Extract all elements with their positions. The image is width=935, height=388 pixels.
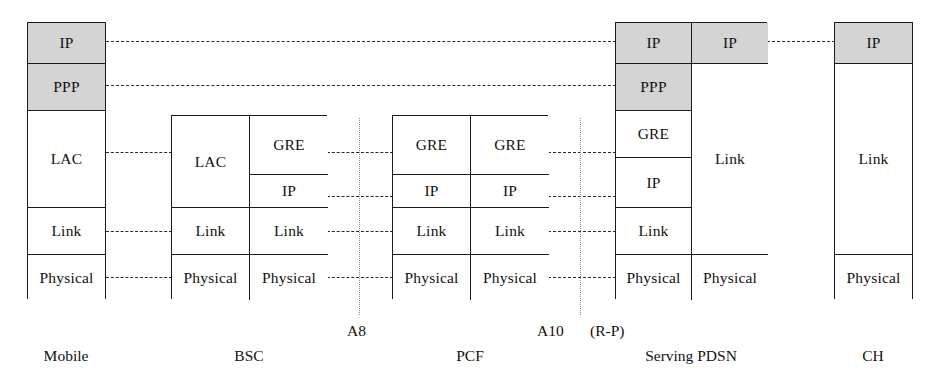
layer-pdsn-ppp: PPP (616, 64, 692, 111)
node-label-ch: CH (862, 347, 884, 365)
connector-ip-bsc-pcf (327, 196, 393, 197)
layer-pcf-physical-left: Physical (393, 255, 471, 300)
layer-pdsn-physical-right: Physical (692, 255, 768, 300)
connector-ip-pdsn-ch (767, 41, 835, 42)
node-label-serving-pdsn: Serving PDSN (645, 347, 737, 365)
interface-label-a10: A10 (537, 322, 564, 340)
layer-pdsn-ip-upper: IP (616, 23, 692, 64)
stack-ch: IP Link Physical (834, 22, 913, 299)
interface-label-rp: (R-P) (590, 322, 624, 340)
connector-lac-mobile-bsc (106, 152, 172, 153)
connector-ip-mobile-pdsn (106, 41, 616, 42)
layer-bsc-gre: GRE (250, 116, 328, 175)
node-label-mobile: Mobile (44, 347, 89, 365)
layer-pcf-ip-left: IP (393, 175, 471, 208)
connector-physical-mobile-bsc (106, 277, 172, 278)
connector-link-mobile-bsc (106, 231, 172, 232)
layer-pcf-gre-left: GRE (393, 116, 471, 175)
connector-link-bsc-pcf (327, 231, 393, 232)
layer-pdsn-link-left: Link (616, 208, 692, 255)
connector-physical-bsc-pcf (327, 277, 393, 278)
layer-mobile-link: Link (28, 208, 105, 255)
interface-label-a8: A8 (347, 322, 366, 340)
layer-pdsn-ip-lower: IP (616, 158, 692, 208)
connector-physical-pcf-pdsn (548, 277, 616, 278)
connector-gre-bsc-pcf (327, 152, 393, 153)
connector-ip-pcf-pdsn (548, 196, 616, 197)
stack-bsc: LAC Link Physical GRE IP Link Physical (171, 115, 327, 299)
layer-bsc-physical-right: Physical (250, 255, 328, 300)
layer-pcf-physical-right: Physical (471, 255, 549, 300)
layer-pcf-ip-right: IP (471, 175, 549, 208)
layer-pcf-gre-right: GRE (471, 116, 549, 175)
layer-ch-ip: IP (835, 23, 912, 64)
interface-line-a10 (580, 118, 581, 315)
layer-pcf-link-left: Link (393, 208, 471, 255)
node-label-pcf: PCF (456, 347, 484, 365)
connector-link-pcf-pdsn (548, 231, 616, 232)
stack-serving-pdsn: IP PPP GRE IP Link Physical IP Link Phys… (615, 22, 767, 299)
layer-mobile-ppp: PPP (28, 64, 105, 111)
layer-pdsn-physical-left: Physical (616, 255, 692, 300)
protocol-stack-diagram: IP PPP LAC Link Physical LAC Link Physic… (0, 0, 935, 388)
node-label-bsc: BSC (234, 347, 263, 365)
layer-mobile-ip: IP (28, 23, 105, 64)
interface-line-a8 (359, 118, 360, 315)
layer-pdsn-ip-right: IP (692, 23, 768, 64)
layer-bsc-lac: LAC (172, 116, 250, 208)
connector-gre-pcf-pdsn (548, 152, 616, 153)
connector-ppp-mobile-pdsn (106, 85, 616, 86)
layer-bsc-link-left: Link (172, 208, 250, 255)
layer-bsc-ip: IP (250, 175, 328, 208)
layer-bsc-link-right: Link (250, 208, 328, 255)
layer-bsc-physical-left: Physical (172, 255, 250, 300)
layer-ch-link: Link (835, 64, 912, 255)
layer-mobile-lac: LAC (28, 111, 105, 208)
layer-pcf-link-right: Link (471, 208, 549, 255)
layer-mobile-physical: Physical (28, 255, 105, 300)
stack-pcf: GRE IP Link Physical GRE IP Link Physica… (392, 115, 548, 299)
layer-pdsn-link-right: Link (692, 64, 768, 255)
stack-mobile: IP PPP LAC Link Physical (27, 22, 106, 299)
layer-pdsn-gre: GRE (616, 111, 692, 158)
layer-ch-physical: Physical (835, 255, 912, 300)
